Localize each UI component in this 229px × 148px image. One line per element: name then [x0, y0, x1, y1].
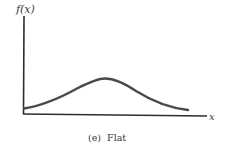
x-axis [23, 114, 207, 116]
y-axis [24, 16, 25, 114]
figure-caption: (e) Flat [88, 132, 126, 143]
flat-distribution-figure: f(x) x (e) Flat [0, 0, 229, 148]
x-axis-label: x [209, 111, 215, 122]
y-axis-label: f(x) [15, 3, 35, 16]
density-curve [24, 79, 188, 111]
